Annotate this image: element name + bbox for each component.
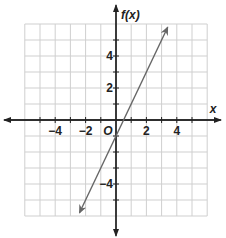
x-tick-label: 2 xyxy=(143,124,150,138)
coordinate-plane: −4−22442−4Oxf(x) xyxy=(0,0,226,238)
y-axis-label: f(x) xyxy=(121,8,140,22)
x-axis-label: x xyxy=(209,102,218,116)
origin-label: O xyxy=(103,124,113,138)
y-tick-label: 2 xyxy=(106,81,113,95)
y-tick-label: −4 xyxy=(99,177,113,191)
x-tick-label: −2 xyxy=(79,124,93,138)
x-tick-label: 4 xyxy=(173,124,180,138)
x-tick-label: −4 xyxy=(48,124,62,138)
function-line xyxy=(124,27,168,120)
y-tick-label: 4 xyxy=(106,49,113,63)
